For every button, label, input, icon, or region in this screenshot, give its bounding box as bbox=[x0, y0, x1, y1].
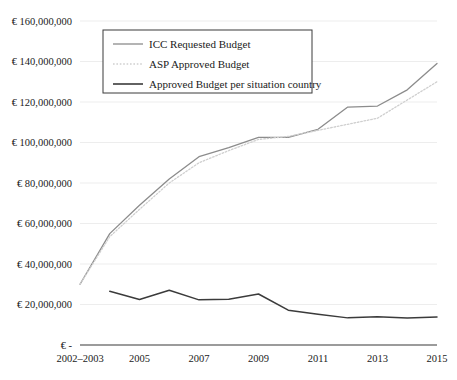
x-axis-tick-label: 2009 bbox=[248, 353, 269, 364]
chart-legend: ICC Requested BudgetASP Approved BudgetA… bbox=[103, 30, 322, 93]
y-axis-tick-label: € 160,000,000 bbox=[12, 16, 72, 27]
x-axis-tick-label: 2002–2003 bbox=[56, 353, 103, 364]
y-axis-tick-label: € 60,000,000 bbox=[17, 218, 72, 229]
y-axis-tick-label: € - bbox=[61, 340, 73, 351]
x-axis-tick-label: 2011 bbox=[308, 353, 329, 364]
y-axis-tick-labels: € -€ 20,000,000€ 40,000,000€ 60,000,000€… bbox=[12, 16, 73, 351]
legend-label-2: Approved Budget per situation country bbox=[149, 78, 322, 90]
x-axis-tick-labels: 2002–2003200520072009201120132015 bbox=[56, 353, 447, 364]
y-axis-tick-label: € 40,000,000 bbox=[17, 259, 72, 270]
chart-canvas: € -€ 20,000,000€ 40,000,000€ 60,000,000€… bbox=[0, 0, 457, 380]
y-axis-tick-label: € 100,000,000 bbox=[12, 137, 72, 148]
y-axis-tick-label: € 20,000,000 bbox=[17, 299, 72, 310]
x-axis-tick-label: 2005 bbox=[129, 353, 150, 364]
y-axis-tick-label: € 80,000,000 bbox=[17, 178, 72, 189]
legend-label-0: ICC Requested Budget bbox=[149, 38, 250, 50]
x-axis-tick-label: 2015 bbox=[427, 353, 448, 364]
chart-figure: € -€ 20,000,000€ 40,000,000€ 60,000,000€… bbox=[0, 0, 457, 380]
x-axis-tick-label: 2013 bbox=[367, 353, 388, 364]
x-axis-tick-label: 2007 bbox=[189, 353, 210, 364]
series-line-0 bbox=[80, 64, 437, 285]
y-axis-tick-label: € 140,000,000 bbox=[12, 56, 72, 67]
y-axis-tick-label: € 120,000,000 bbox=[12, 97, 72, 108]
legend-label-1: ASP Approved Budget bbox=[149, 58, 249, 70]
